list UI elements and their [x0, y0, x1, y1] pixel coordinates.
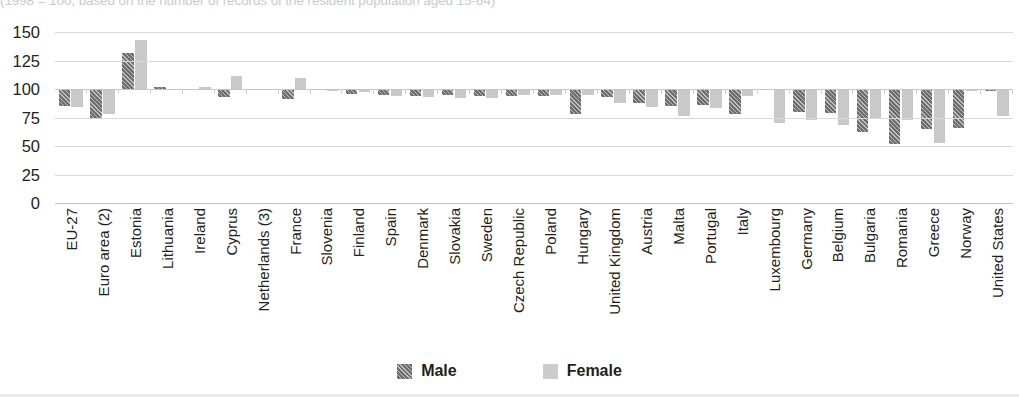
x-axis-tick [758, 89, 790, 94]
x-axis-label-cell: Norway [949, 206, 981, 346]
x-axis-category-label: Ireland [191, 208, 206, 254]
x-axis-category-labels: EU-27Euro area (2)EstoniaLithuaniaIrelan… [55, 206, 1013, 346]
x-axis-label-cell: EU-27 [55, 206, 87, 346]
x-axis-tick [215, 89, 247, 94]
x-axis-label-cell: Finland [342, 206, 374, 346]
x-axis-tick [87, 89, 119, 94]
y-axis-tick-label: 150 [12, 23, 40, 42]
x-axis-tick-row [55, 89, 1013, 94]
x-axis-label-cell: Belgium [822, 206, 854, 346]
x-axis-label-cell: Euro area (2) [87, 206, 119, 346]
x-axis-category-label: Spain [383, 208, 398, 246]
x-axis-tick [247, 89, 279, 94]
bar-male [921, 89, 932, 129]
x-axis-category-label: France [287, 208, 302, 255]
x-axis-tick [279, 89, 311, 94]
x-axis-category-label: Finland [351, 208, 366, 257]
x-axis-label-cell: Sweden [470, 206, 502, 346]
legend-item-female[interactable]: Female [543, 362, 622, 380]
legend-label-male: Male [421, 362, 457, 380]
x-axis-category-label: Czech Republic [511, 208, 526, 313]
x-axis-tick [598, 89, 630, 94]
bar-female [135, 40, 146, 89]
y-axis-tick-label: 75 [22, 108, 40, 127]
x-axis-tick [662, 89, 694, 94]
legend-swatch-male-icon [397, 364, 412, 379]
x-axis-label-cell: Denmark [406, 206, 438, 346]
x-axis-label-cell: Luxembourg [758, 206, 790, 346]
x-axis-label-cell: France [279, 206, 311, 346]
x-axis-category-label: United Kingdom [606, 208, 621, 315]
chart-legend: Male Female [0, 362, 1019, 380]
x-axis-category-label: Lithuania [159, 208, 174, 269]
legend-label-female: Female [567, 362, 622, 380]
gridline [55, 118, 1013, 119]
bar-female [934, 89, 945, 143]
chart-container: (1998 = 100, based on the number of reco… [0, 0, 1019, 397]
x-axis-tick [534, 89, 566, 94]
bar-female [231, 76, 242, 89]
x-axis-label-cell: Germany [790, 206, 822, 346]
x-axis-label-cell: Poland [534, 206, 566, 346]
x-axis-category-label: Germany [798, 208, 813, 270]
legend-item-male[interactable]: Male [397, 362, 457, 380]
x-axis-label-cell: Malta [662, 206, 694, 346]
x-axis-tick [374, 89, 406, 94]
x-axis-category-label: Bulgaria [862, 208, 877, 263]
x-axis-tick [311, 89, 343, 94]
x-axis-tick [406, 89, 438, 94]
x-axis-tick [438, 89, 470, 94]
y-axis-tick-label: 25 [22, 165, 40, 184]
x-axis-label-cell: Portugal [694, 206, 726, 346]
y-axis-tick-label: 100 [12, 80, 40, 99]
x-axis-tick [630, 89, 662, 94]
x-axis-category-label: Denmark [415, 208, 430, 269]
x-axis-label-cell: Estonia [119, 206, 151, 346]
x-axis-tick [822, 89, 854, 94]
x-axis-category-label: Euro area (2) [95, 208, 110, 296]
x-axis-tick [55, 89, 87, 94]
x-axis-category-label: Norway [958, 208, 973, 259]
x-axis-label-cell: Slovenia [311, 206, 343, 346]
x-axis-tick [853, 89, 885, 94]
x-axis-tick [502, 89, 534, 94]
bar-female [838, 89, 849, 125]
gridline [55, 32, 1013, 33]
x-axis-tick [726, 89, 758, 94]
x-axis-label-cell: United Kingdom [598, 206, 630, 346]
x-axis-category-label: Portugal [702, 208, 717, 264]
x-axis-category-label: United States [990, 208, 1005, 298]
x-axis-label-cell: Czech Republic [502, 206, 534, 346]
x-axis-tick [183, 89, 215, 94]
x-axis-label-cell: Bulgaria [853, 206, 885, 346]
x-axis-category-label: Belgium [830, 208, 845, 262]
x-axis-label-cell: Netherlands (3) [247, 206, 279, 346]
plot-area [55, 32, 1013, 203]
gridline [55, 146, 1013, 147]
x-axis-category-label: Romania [894, 208, 909, 268]
x-axis-tick [917, 89, 949, 94]
x-axis-label-cell: Hungary [566, 206, 598, 346]
bar-female [295, 78, 306, 89]
gridline [55, 61, 1013, 62]
x-axis-tick [790, 89, 822, 94]
bar-male [889, 89, 900, 144]
x-axis-tick [342, 89, 374, 94]
x-axis-tick [885, 89, 917, 94]
x-axis-label-cell: Cyprus [215, 206, 247, 346]
x-axis-label-cell: Austria [630, 206, 662, 346]
x-axis-tick [151, 89, 183, 94]
bar-male [122, 53, 133, 89]
x-axis-category-label: Cyprus [223, 208, 238, 256]
x-axis-label-cell: Romania [885, 206, 917, 346]
x-axis-label-cell: Spain [374, 206, 406, 346]
x-axis-label-cell: Italy [726, 206, 758, 346]
x-axis-category-label: Slovakia [447, 208, 462, 265]
chart-subtitle: (1998 = 100, based on the number of reco… [0, 0, 1019, 11]
x-axis-category-label: Estonia [127, 208, 142, 258]
gridline [55, 175, 1013, 176]
x-axis-category-label: Hungary [574, 208, 589, 265]
x-axis-tick [566, 89, 598, 94]
x-axis-label-cell: Slovakia [438, 206, 470, 346]
x-axis-category-label: EU-27 [63, 208, 78, 251]
